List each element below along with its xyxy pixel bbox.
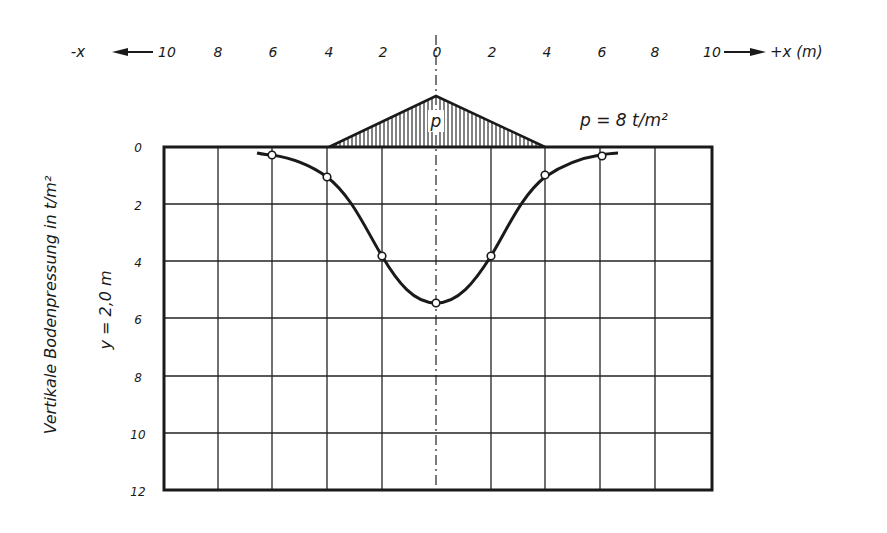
x-tick: 2 [379, 44, 388, 60]
x-axis-pos-arrow-icon [724, 48, 766, 56]
y-tick: 6 [134, 313, 142, 327]
data-point [432, 299, 440, 307]
x-axis: -x 10 8 6 4 2 0 2 4 6 8 10 +x (m) [71, 43, 823, 61]
data-point [598, 152, 606, 160]
x-tick: 6 [598, 44, 607, 60]
x-axis-pos-label: +x (m) [770, 43, 823, 61]
depth-label: y = 2,0 m [96, 270, 115, 350]
x-axis-neg-arrow-icon [112, 48, 153, 56]
triangular-load: p [329, 90, 545, 150]
x-axis-neg-label: -x [71, 43, 85, 61]
y-tick: 2 [134, 199, 142, 213]
x-tick: 10 [158, 44, 176, 60]
load-annotation: p = 8 t/m² [579, 110, 668, 130]
x-tick: 10 [703, 44, 721, 60]
load-symbol: p [430, 111, 442, 131]
pressure-curve [257, 151, 618, 307]
soil-pressure-diagram: -x 10 8 6 4 2 0 2 4 6 8 10 +x (m) Vertik… [0, 0, 887, 533]
y-tick: 12 [130, 485, 145, 499]
y-axis: 0 2 4 6 8 10 12 [130, 141, 146, 499]
x-tick: 0 [433, 44, 442, 60]
x-tick: 6 [269, 44, 278, 60]
data-point [378, 252, 386, 260]
y-axis-title: Vertikale Bodenpressung in t/m² [41, 175, 60, 434]
x-tick: 8 [651, 44, 660, 60]
x-tick: 4 [325, 44, 334, 60]
y-tick: 0 [134, 141, 142, 155]
data-point [268, 151, 276, 159]
data-point [541, 171, 549, 179]
y-tick: 10 [130, 428, 146, 442]
y-tick: 4 [134, 256, 142, 270]
data-point [323, 173, 331, 181]
x-tick: 4 [543, 44, 552, 60]
y-tick: 8 [134, 371, 142, 385]
x-tick: 8 [214, 44, 223, 60]
grid [164, 147, 712, 490]
data-point [487, 252, 495, 260]
x-tick: 2 [488, 44, 497, 60]
